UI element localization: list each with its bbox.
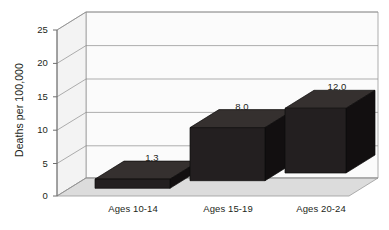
y-tick-label-5: 5 xyxy=(22,159,48,169)
y-tick-label-10: 10 xyxy=(22,125,48,135)
bar-3-front-face xyxy=(285,108,346,173)
category-label-ages-20-24: Ages 20-24 xyxy=(281,203,361,214)
chart-container: Deaths per 100,000 0 5 10 15 20 25 1.3 8… xyxy=(0,0,389,230)
bar-ages-20-24[interactable] xyxy=(285,90,375,173)
y-tick-label-25: 25 xyxy=(22,25,48,35)
y-axis-ticks xyxy=(53,30,57,196)
y-tick-label-0: 0 xyxy=(22,191,48,201)
value-label-ages-20-24: 12.0 xyxy=(317,81,357,92)
y-tick-label-20: 20 xyxy=(22,58,48,68)
bar-ages-15-19[interactable] xyxy=(190,110,294,181)
bar-1-front-face xyxy=(95,179,170,188)
bar-2-front-face xyxy=(190,128,265,181)
y-tick-label-15: 15 xyxy=(22,92,48,102)
category-label-ages-15-19: Ages 15-19 xyxy=(188,203,268,214)
value-label-ages-15-19: 8.0 xyxy=(222,101,262,112)
chart-canvas xyxy=(0,0,389,230)
category-label-ages-10-14: Ages 10-14 xyxy=(93,203,173,214)
value-label-ages-10-14: 1.3 xyxy=(132,152,172,163)
plot-left-wall xyxy=(57,12,86,196)
